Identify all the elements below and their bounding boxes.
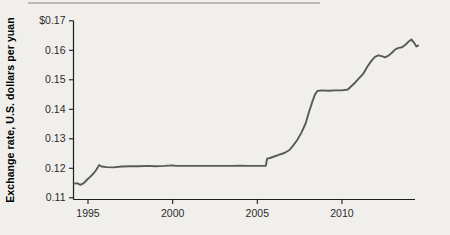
y-tick-label: 0.14 — [45, 103, 66, 115]
y-tick-label: 0.13 — [45, 132, 66, 144]
y-tick-label: $0.17 — [39, 14, 65, 26]
x-tick-label: 2000 — [161, 207, 185, 219]
exchange-rate-line-chart: 0.110.120.130.140.150.16$0.1719952000200… — [0, 0, 450, 235]
exchange-rate-figure: Exchange rate, U.S. dollars per yuan 0.1… — [0, 0, 450, 235]
y-tick-label: 0.11 — [46, 191, 66, 203]
y-tick-label: 0.12 — [45, 162, 66, 174]
exchange-rate-series-line — [74, 39, 419, 184]
x-tick-label: 2005 — [246, 207, 270, 219]
y-tick-label: 0.15 — [45, 73, 66, 85]
x-tick-label: 1995 — [76, 207, 100, 219]
x-tick-label: 2010 — [330, 207, 354, 219]
y-tick-label: 0.16 — [45, 44, 66, 56]
